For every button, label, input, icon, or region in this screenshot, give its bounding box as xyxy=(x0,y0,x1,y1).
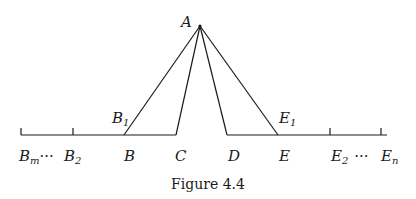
label-e: E xyxy=(278,147,290,165)
figure-caption: Figure 4.4 xyxy=(171,176,245,192)
label-b2: B2 xyxy=(63,147,81,166)
segment-ad xyxy=(200,26,227,135)
label-en: En xyxy=(380,147,398,166)
label-d: D xyxy=(227,147,240,165)
label-b1: B1 xyxy=(111,109,129,128)
label-e2: E2··· xyxy=(330,147,369,166)
label-e1: E1 xyxy=(278,109,296,128)
apex-point xyxy=(198,24,201,27)
label-a: A xyxy=(179,13,192,31)
label-b: B xyxy=(123,147,135,165)
segment-ae xyxy=(200,26,278,135)
label-bm: Bm··· xyxy=(18,147,54,166)
geometry-diagram: A B1 E1 Bm··· B2 B C D E E2··· En Figure… xyxy=(0,0,416,199)
label-c: C xyxy=(175,147,187,165)
